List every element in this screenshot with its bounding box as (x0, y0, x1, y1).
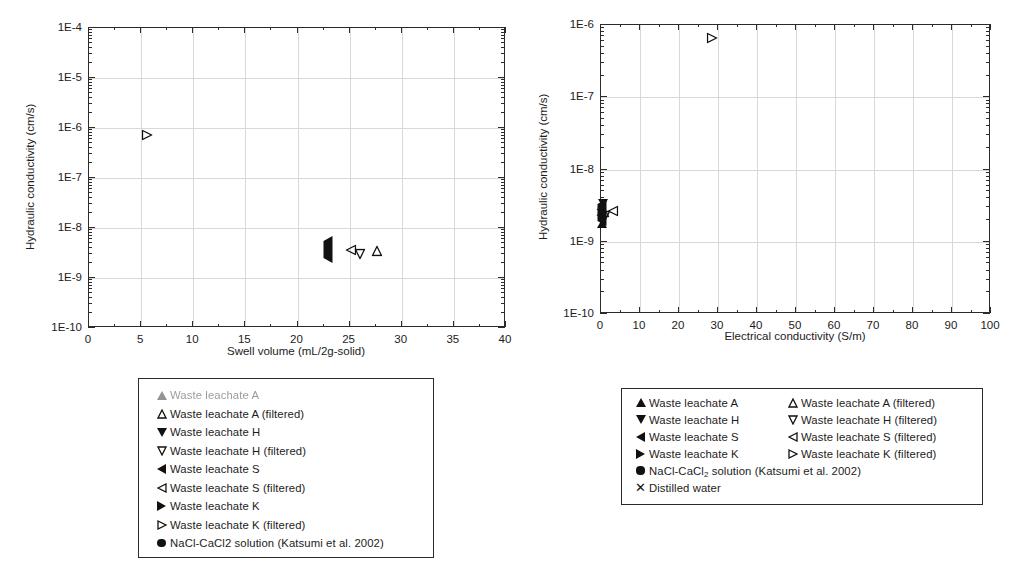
x-tick-label: 35 (446, 333, 459, 345)
y-tick-minor-right (501, 253, 505, 254)
x-tick-minor (375, 27, 376, 30)
y-tick-minor-right (986, 31, 990, 32)
x-tick-top (756, 24, 757, 30)
x-tick (717, 307, 718, 313)
y-tick-right (498, 327, 505, 328)
legend-symbol (153, 479, 170, 497)
y-tick-minor (600, 270, 604, 271)
y-tick-minor (88, 32, 92, 33)
y-tick (88, 227, 95, 228)
y-tick-minor (88, 53, 92, 54)
legend-symbol (153, 405, 170, 423)
y-tick-minor (88, 138, 92, 139)
y-tick-minor-right (501, 162, 505, 163)
triangle-left-filled-icon (157, 464, 166, 474)
y-tick-minor (88, 292, 92, 293)
legend-symbol (153, 391, 170, 400)
y-tick-minor (600, 252, 604, 253)
triangle-down-filled-icon (157, 428, 167, 437)
y-tick-minor-right (501, 282, 505, 283)
y-tick-right (498, 227, 505, 228)
y-tick-minor-right (986, 147, 990, 148)
x-tick-minor (893, 24, 894, 27)
y-tick-minor (88, 238, 92, 239)
y-tick-minor (88, 38, 92, 39)
x-tick-top (990, 24, 991, 30)
gridline-horizontal (601, 242, 989, 243)
legend-symbol (153, 428, 170, 437)
legend-label: Waste leachate A (filtered) (170, 408, 304, 420)
legend-item: NaCl-CaCl2 solution (Katsumi et al. 2002… (632, 462, 982, 479)
left-x-axis-title: Swell volume (mL/2g-solid) (227, 345, 365, 357)
y-tick-minor-right (501, 53, 505, 54)
y-tick-minor-right (501, 292, 505, 293)
y-tick-minor (88, 229, 92, 230)
y-tick-minor-right (986, 248, 990, 249)
legend-label: Waste leachate K (170, 500, 260, 512)
legend-item: Waste leachate K (632, 445, 784, 462)
y-tick-minor-right (986, 134, 990, 135)
gridline-vertical (245, 28, 246, 326)
x-tick-top (349, 27, 350, 33)
y-tick-minor (600, 103, 604, 104)
y-tick-minor (600, 40, 604, 41)
y-tick-minor (88, 35, 92, 36)
x-tick-top (140, 27, 141, 33)
x-tick-minor (893, 310, 894, 313)
legend-label: NaCl-CaCl2 solution (Katsumi et al. 2002… (649, 465, 861, 477)
right-plot-area (600, 24, 990, 313)
x-tick-minor (932, 310, 933, 313)
y-tick-minor (88, 47, 92, 48)
legend-symbol (632, 415, 649, 424)
legend-label: Waste leachate H (649, 414, 739, 426)
data-point: ✕ (595, 203, 606, 221)
y-tick-minor (88, 132, 92, 133)
legend-symbol (153, 516, 170, 534)
x-tick-top (192, 27, 193, 33)
y-tick-label: 1E-6 (558, 18, 594, 30)
x-tick-minor (427, 27, 428, 30)
y-tick-minor (88, 42, 92, 43)
y-tick-minor (88, 312, 92, 313)
y-tick (88, 327, 95, 328)
y-tick-minor (88, 85, 92, 86)
legend-label: Waste leachate K (filtered) (801, 448, 936, 460)
legend-item: Waste leachate S (153, 460, 433, 479)
y-tick-minor-right (986, 291, 990, 292)
x-tick-top (401, 27, 402, 33)
y-tick-minor-right (501, 185, 505, 186)
legend-column-filled: Waste leachate AWaste leachate HWaste le… (632, 394, 784, 462)
y-tick-right (498, 277, 505, 278)
left-y-axis-title: Hydraulic conductivity (cm/s) (24, 104, 36, 250)
x-tick-minor (854, 24, 855, 27)
y-tick-minor (600, 35, 604, 36)
y-tick-label: 1E-9 (558, 235, 594, 247)
y-tick-minor-right (986, 262, 990, 263)
y-tick-minor (88, 232, 92, 233)
x-tick-label: 40 (750, 319, 763, 331)
legend-item: NaCl-CaCl2 solution (Katsumi et al. 2002… (153, 534, 433, 553)
y-tick-minor (88, 262, 92, 263)
y-tick (88, 77, 95, 78)
y-tick (88, 177, 95, 178)
x-tick-label: 50 (789, 319, 802, 331)
y-tick-minor-right (501, 153, 505, 154)
y-tick-minor (88, 88, 92, 89)
y-tick-right (983, 24, 990, 25)
x-tick (140, 321, 141, 327)
x-tick-top (297, 27, 298, 33)
x-tick-minor (323, 27, 324, 30)
x-tick (990, 307, 991, 313)
triangle-left-filled-icon (636, 432, 645, 442)
x-tick-top (873, 24, 874, 30)
y-tick (88, 277, 95, 278)
x-tick (453, 321, 454, 327)
triangle-up-open-icon (371, 246, 382, 257)
y-tick-minor (88, 142, 92, 143)
y-tick-minor-right (501, 97, 505, 98)
y-tick-minor (88, 303, 92, 304)
gridline-horizontal (601, 170, 989, 171)
legend-item: Waste leachate H (632, 411, 784, 428)
legend-columns: Waste leachate AWaste leachate HWaste le… (632, 394, 982, 462)
x-tick-label: 90 (945, 319, 958, 331)
